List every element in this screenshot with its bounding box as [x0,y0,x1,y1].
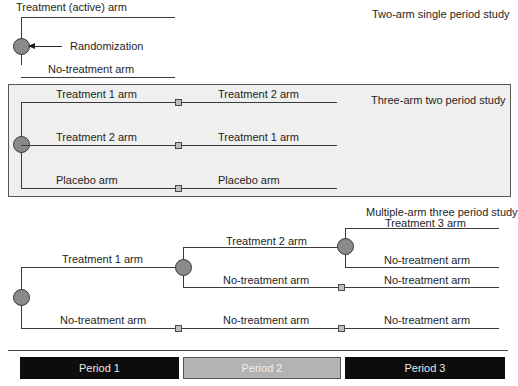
arm-label: Treatment 2 arm [56,131,137,144]
arm-label: No-treatment arm [223,314,309,327]
randomization-label: Randomization [70,40,143,53]
randomization-node [13,289,30,306]
arm-label: No-treatment arm [223,274,309,287]
arm-label: No-treatment arm [60,314,146,327]
randomization-node [337,238,354,255]
period-2-bar: Period 2 [183,357,341,379]
period-boundary-marker [338,325,345,332]
period-crossover-marker [175,185,182,192]
period-crossover-marker [175,142,182,149]
arm-label-no-treatment: No-treatment arm [48,63,134,76]
period-1-bar: Period 1 [20,357,179,379]
arm-label-treatment-active: Treatment (active) arm [16,1,127,14]
arm-line [21,328,499,329]
arm-label: No-treatment arm [384,254,470,267]
arm-line [345,228,499,229]
arm-line [21,77,175,78]
arm-line [183,247,345,248]
arrow-left-icon [30,46,62,47]
arm-label: No-treatment arm [384,274,470,287]
arm-label: Treatment 1 arm [62,253,143,266]
timeline-divider [8,350,508,351]
period-boundary-marker [338,284,345,291]
study-title-three-arm: Three-arm two period study [371,94,506,107]
arm-line [21,267,183,268]
arm-label: Treatment 1 arm [218,131,299,144]
arm-label: Treatment 2 arm [218,88,299,101]
arm-label: No-treatment arm [384,314,470,327]
arm-label: Treatment 1 arm [56,88,137,101]
period-3-bar: Period 3 [345,357,505,379]
arm-label: Placebo arm [56,174,118,187]
period-boundary-marker [175,325,182,332]
arm-label: Placebo arm [218,174,280,187]
arm-line [21,17,175,18]
randomization-node [175,259,192,276]
arm-line [345,267,499,268]
study-title-two-arm: Two-arm single period study [372,8,510,21]
period-crossover-marker [175,99,182,106]
